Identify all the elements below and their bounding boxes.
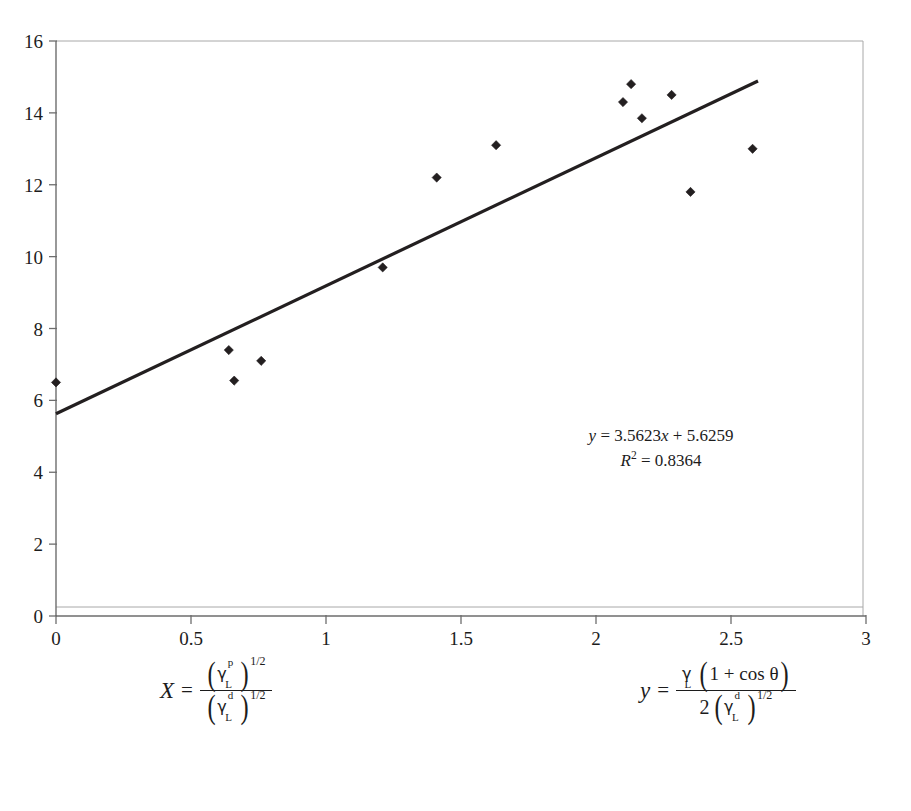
y-axis-tick-label: 10	[0, 247, 43, 266]
data-point-marker	[627, 80, 636, 89]
x-axis-formula: X = ( γpL ) 1/2 ( γdL ) 1/2	[160, 658, 272, 723]
x-axis-tick-label: 3	[861, 629, 871, 648]
left-paren-icon: (	[700, 660, 708, 688]
y-formula-lhs: y	[640, 678, 650, 704]
data-point-marker	[637, 114, 646, 123]
x-axis-tick-label: 1	[321, 629, 331, 648]
x-numerator-power: 1/2	[250, 654, 265, 669]
plot-frame	[56, 41, 863, 616]
data-point-marker	[492, 141, 501, 150]
x-denominator-gamma: γdL	[217, 695, 239, 719]
r-squared-value: = 0.8364	[637, 451, 702, 470]
gamma-superscript: d	[228, 689, 234, 701]
y-axis-tick-label: 0	[0, 607, 43, 626]
x-axis-tick-label: 1.5	[449, 629, 473, 648]
x-axis-tick-label: 2.5	[719, 629, 743, 648]
gamma-subscript: L	[732, 711, 739, 723]
gamma-subscript: L	[225, 711, 232, 723]
data-point-marker	[667, 90, 676, 99]
r-squared-symbol: R	[620, 451, 630, 470]
x-denominator-power: 1/2	[250, 688, 265, 703]
y-axis-tick-label: 4	[0, 463, 43, 482]
left-paren-icon: (	[714, 693, 722, 721]
y-numerator-gamma: γL	[682, 662, 698, 686]
scatter-plot-figure: 0246810121416 00.511.522.53 y = 3.5623x …	[0, 0, 911, 811]
x-formula-numerator: ( γpL ) 1/2	[200, 658, 272, 690]
equation-suffix: + 5.6259	[669, 426, 734, 445]
left-paren-icon: (	[207, 693, 215, 721]
data-point-marker	[257, 356, 266, 365]
gamma-subscript: L	[685, 678, 692, 690]
y-denominator-power: 1/2	[757, 688, 772, 703]
data-points	[51, 80, 757, 387]
y-axis-tick-label: 6	[0, 391, 43, 410]
y-formula-denominator: 2 ( γdL ) 1/2	[694, 691, 779, 723]
x-formula-fraction: ( γpL ) 1/2 ( γdL ) 1/2	[200, 658, 272, 723]
axis-ticks	[49, 41, 866, 624]
data-point-marker	[748, 144, 757, 153]
equation-body: = 3.5623	[596, 426, 661, 445]
data-point-marker	[224, 345, 233, 354]
right-paren-icon: )	[747, 693, 755, 721]
data-point-marker	[618, 97, 627, 106]
x-formula-denominator: ( γdL ) 1/2	[200, 691, 272, 723]
data-point-marker	[51, 378, 60, 387]
denominator-coefficient: 2	[700, 696, 710, 719]
r-squared-line: R2 = 0.8364	[536, 449, 786, 474]
y-formula-equals: =	[657, 678, 669, 703]
y-axis-formula: y = γL ( 1 + cos θ ) 2 ( γdL ) 1/2	[640, 658, 796, 723]
data-point-marker	[432, 173, 441, 182]
regression-annotation: y = 3.5623x + 5.6259 R2 = 0.8364	[536, 424, 786, 473]
trendline	[56, 81, 758, 414]
data-point-marker	[230, 376, 239, 385]
y-axis-tick-label: 8	[0, 319, 43, 338]
y-axis-tick-label: 12	[0, 175, 43, 194]
cosine-expression: 1 + cos θ	[710, 663, 779, 685]
y-axis-tick-label: 14	[0, 103, 43, 122]
equation-x-var: x	[661, 426, 669, 445]
left-paren-icon: (	[207, 660, 215, 688]
right-paren-icon: )	[241, 693, 249, 721]
x-axis-tick-label: 2	[591, 629, 601, 648]
gamma-superscript: d	[734, 689, 740, 701]
data-point-marker	[686, 187, 695, 196]
y-formula-fraction: γL ( 1 + cos θ ) 2 ( γdL ) 1/2	[676, 658, 796, 723]
y-formula-numerator: γL ( 1 + cos θ )	[676, 658, 796, 690]
x-formula-equals: =	[181, 678, 193, 703]
right-paren-icon: )	[780, 660, 788, 688]
x-axis-tick-label: 0.5	[179, 629, 203, 648]
plot-axes	[56, 41, 866, 616]
right-paren-icon: )	[241, 660, 249, 688]
x-axis-tick-label: 0	[51, 629, 61, 648]
data-point-marker	[378, 263, 387, 272]
regression-equation: y = 3.5623x + 5.6259	[536, 424, 786, 449]
x-numerator-gamma: γpL	[217, 662, 239, 686]
x-formula-lhs: X	[160, 678, 174, 704]
y-denominator-gamma: γdL	[724, 695, 746, 719]
gamma-superscript: p	[228, 656, 234, 668]
y-axis-tick-label: 16	[0, 32, 43, 51]
y-axis-tick-label: 2	[0, 535, 43, 554]
